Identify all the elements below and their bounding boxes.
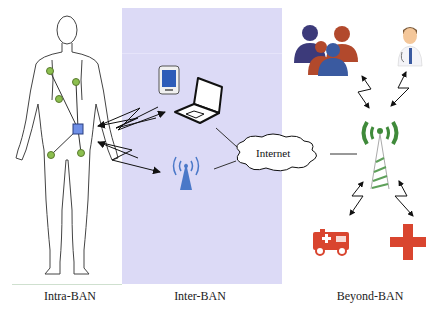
sensor-nodes [47,68,85,159]
doctor-icon [398,27,422,66]
cell-tower-icon [364,122,397,189]
coordinator-node-icon [73,124,83,134]
ambulance-icon [313,229,349,255]
sensor-node-icon [78,150,85,157]
tablet-icon [159,66,179,94]
section-label-beyond-ban: Beyond-BAN [325,289,415,304]
ban-architecture-diagram [0,0,444,313]
sensor-node-icon [73,79,80,86]
human-body-icon [16,16,118,274]
section-label-intra-ban: Intra-BAN [30,289,110,304]
sensor-node-icon [47,68,54,75]
medical-cross-icon [390,224,426,260]
internet-label: Internet [256,147,290,159]
sensor-node-icon [48,152,55,159]
sensor-node-icon [56,96,63,103]
user-group-icon [294,25,358,76]
laptop-icon [175,78,222,123]
wireless-access-point-icon [174,157,199,190]
section-label-inter-ban: Inter-BAN [160,289,240,304]
